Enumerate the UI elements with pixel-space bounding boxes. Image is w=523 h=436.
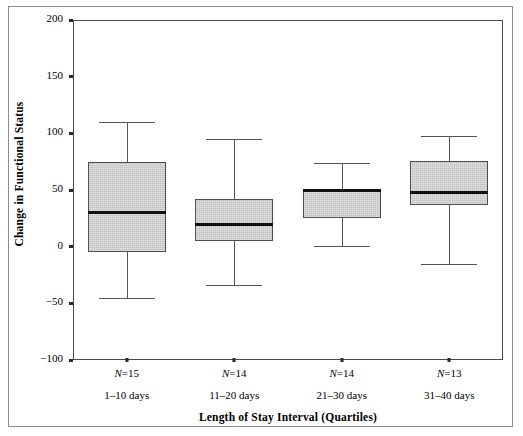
group-range-label: 31–40 days bbox=[424, 389, 474, 401]
whisker-lower-stem bbox=[234, 241, 235, 285]
whisker-lower-cap bbox=[99, 298, 155, 299]
y-tick-mark bbox=[69, 359, 73, 362]
y-tick-mark bbox=[69, 19, 73, 22]
y-tick-label: 150 bbox=[29, 69, 63, 81]
y-tick-mark bbox=[69, 245, 73, 248]
y-tick-mark bbox=[69, 302, 73, 305]
group-count-label: N=15 bbox=[114, 367, 139, 379]
box-iqr bbox=[88, 162, 166, 253]
whisker-lower-stem bbox=[449, 205, 450, 264]
boxplot-figure: Change in Functional Status 200150100500… bbox=[0, 0, 523, 436]
whisker-upper-cap bbox=[206, 139, 262, 140]
x-axis-title: Length of Stay Interval (Quartiles) bbox=[73, 411, 503, 423]
group-count-label: N=14 bbox=[222, 367, 247, 379]
box-iqr bbox=[195, 199, 273, 241]
whisker-lower-stem bbox=[127, 252, 128, 297]
y-tick-mark bbox=[69, 75, 73, 78]
box-iqr bbox=[303, 189, 381, 218]
y-tick-mark bbox=[69, 132, 73, 135]
group-count-label: N=14 bbox=[329, 367, 354, 379]
y-axis-title: Change in Functional Status bbox=[13, 24, 25, 324]
whisker-lower-stem bbox=[342, 218, 343, 245]
whisker-upper-stem bbox=[127, 122, 128, 162]
y-tick-label: −50 bbox=[29, 295, 63, 307]
y-tick-label: 100 bbox=[29, 125, 63, 137]
whisker-lower-cap bbox=[314, 246, 370, 247]
group-range-label: 11–20 days bbox=[209, 389, 259, 401]
median-line bbox=[195, 223, 273, 226]
whisker-upper-stem bbox=[449, 136, 450, 161]
whisker-upper-cap bbox=[421, 136, 477, 137]
whisker-lower-cap bbox=[206, 285, 262, 286]
whisker-upper-cap bbox=[314, 163, 370, 164]
median-line bbox=[410, 191, 488, 194]
x-tick-mark bbox=[233, 358, 236, 362]
group-range-label: 21–30 days bbox=[317, 389, 367, 401]
x-tick-mark bbox=[448, 358, 451, 362]
y-tick-label: −100 bbox=[29, 352, 63, 364]
whisker-upper-stem bbox=[342, 163, 343, 189]
x-tick-mark bbox=[125, 358, 128, 362]
box-iqr bbox=[410, 161, 488, 205]
whisker-lower-cap bbox=[421, 264, 477, 265]
y-tick-label: 50 bbox=[29, 182, 63, 194]
median-line bbox=[88, 211, 166, 214]
group-count-label: N=13 bbox=[437, 367, 462, 379]
median-line bbox=[303, 189, 381, 192]
whisker-upper-cap bbox=[99, 122, 155, 123]
x-tick-mark bbox=[340, 358, 343, 362]
y-tick-label: 0 bbox=[29, 239, 63, 251]
y-tick-label: 200 bbox=[29, 12, 63, 24]
group-range-label: 1–10 days bbox=[104, 389, 149, 401]
y-tick-mark bbox=[69, 189, 73, 192]
whisker-upper-stem bbox=[234, 139, 235, 199]
